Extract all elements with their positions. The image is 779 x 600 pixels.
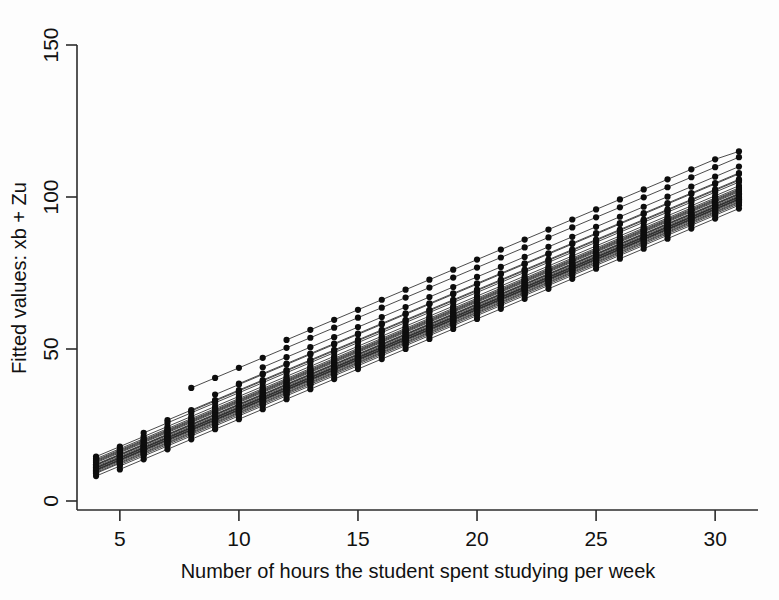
data-point bbox=[641, 211, 647, 217]
data-point bbox=[379, 350, 385, 356]
data-point bbox=[617, 226, 623, 232]
data-point bbox=[141, 430, 147, 436]
data-point bbox=[712, 196, 718, 202]
data-point bbox=[93, 457, 99, 463]
data-point bbox=[402, 326, 408, 332]
data-point bbox=[426, 284, 432, 290]
x-axis-title: Number of hours the student spent studyi… bbox=[181, 560, 657, 582]
data-point bbox=[522, 254, 528, 260]
data-point bbox=[283, 367, 289, 373]
data-point bbox=[402, 317, 408, 323]
data-point bbox=[522, 290, 528, 296]
data-point bbox=[283, 354, 289, 360]
data-point bbox=[236, 397, 242, 403]
data-point bbox=[617, 250, 623, 256]
data-point bbox=[736, 186, 742, 192]
data-point bbox=[355, 315, 361, 321]
data-point bbox=[688, 166, 694, 172]
data-point bbox=[593, 231, 599, 237]
data-point bbox=[331, 341, 337, 347]
data-point bbox=[498, 277, 504, 283]
data-point bbox=[641, 194, 647, 200]
y-tick-label: 50 bbox=[39, 337, 62, 360]
series-student-23 bbox=[141, 179, 742, 436]
data-point bbox=[402, 287, 408, 293]
data-point bbox=[569, 256, 575, 262]
data-point bbox=[664, 201, 670, 207]
data-point bbox=[188, 417, 194, 423]
series-line bbox=[144, 182, 739, 433]
series-line bbox=[239, 173, 739, 384]
data-point bbox=[379, 297, 385, 303]
data-point bbox=[712, 209, 718, 215]
data-point bbox=[712, 164, 718, 170]
fitted-values-chart: 51015202530050100150 Number of hours the… bbox=[0, 0, 779, 600]
data-point bbox=[593, 206, 599, 212]
y-axis-title: Fitted values: xb + Zu bbox=[8, 182, 30, 374]
data-point bbox=[93, 470, 99, 476]
series-student-16-outlier bbox=[188, 154, 742, 391]
data-point bbox=[617, 196, 623, 202]
series-layer bbox=[93, 148, 742, 479]
data-point bbox=[355, 331, 361, 337]
x-tick-label: 10 bbox=[227, 527, 250, 550]
data-point bbox=[402, 295, 408, 301]
data-point bbox=[450, 306, 456, 312]
data-point bbox=[164, 417, 170, 423]
data-point bbox=[569, 234, 575, 240]
data-point bbox=[712, 181, 718, 187]
data-point bbox=[498, 246, 504, 252]
y-tick-label: 0 bbox=[39, 495, 62, 507]
data-point bbox=[307, 351, 313, 357]
series-student-19 bbox=[260, 164, 742, 371]
data-point bbox=[545, 266, 551, 272]
data-point bbox=[545, 234, 551, 240]
data-point bbox=[736, 164, 742, 170]
data-point bbox=[236, 410, 242, 416]
data-point bbox=[260, 364, 266, 370]
data-point bbox=[736, 171, 742, 177]
data-point bbox=[593, 260, 599, 266]
data-point bbox=[212, 392, 218, 398]
data-point bbox=[236, 381, 242, 387]
data-point bbox=[688, 206, 694, 212]
data-point bbox=[307, 344, 313, 350]
data-point bbox=[712, 156, 718, 162]
series-student-14 bbox=[117, 205, 742, 472]
data-point bbox=[450, 267, 456, 273]
data-point bbox=[498, 286, 504, 292]
data-point bbox=[450, 297, 456, 303]
data-point bbox=[164, 440, 170, 446]
data-point bbox=[212, 375, 218, 381]
data-point bbox=[212, 397, 218, 403]
y-tick-label: 100 bbox=[39, 179, 62, 214]
data-point bbox=[426, 307, 432, 313]
data-point bbox=[188, 430, 194, 436]
data-point bbox=[474, 257, 480, 263]
data-point bbox=[474, 296, 480, 302]
data-point bbox=[498, 271, 504, 277]
data-point bbox=[283, 361, 289, 367]
series-student-29 bbox=[93, 199, 742, 476]
data-point bbox=[260, 400, 266, 406]
data-point bbox=[307, 380, 313, 386]
x-tick-label: 25 bbox=[584, 527, 607, 550]
data-point bbox=[355, 307, 361, 313]
data-point bbox=[141, 450, 147, 456]
data-point bbox=[641, 240, 647, 246]
data-point bbox=[307, 357, 313, 363]
data-point bbox=[545, 257, 551, 263]
data-point bbox=[307, 335, 313, 341]
data-point bbox=[712, 174, 718, 180]
data-point bbox=[188, 385, 194, 391]
data-point bbox=[355, 360, 361, 366]
data-point bbox=[450, 274, 456, 280]
data-point bbox=[117, 460, 123, 466]
data-point bbox=[402, 311, 408, 317]
data-point bbox=[164, 427, 170, 433]
data-point bbox=[617, 236, 623, 242]
y-tick-label: 150 bbox=[39, 27, 62, 62]
data-point bbox=[641, 216, 647, 222]
x-tick-label: 20 bbox=[465, 527, 488, 550]
chart-canvas: 51015202530050100150 Number of hours the… bbox=[0, 0, 779, 600]
